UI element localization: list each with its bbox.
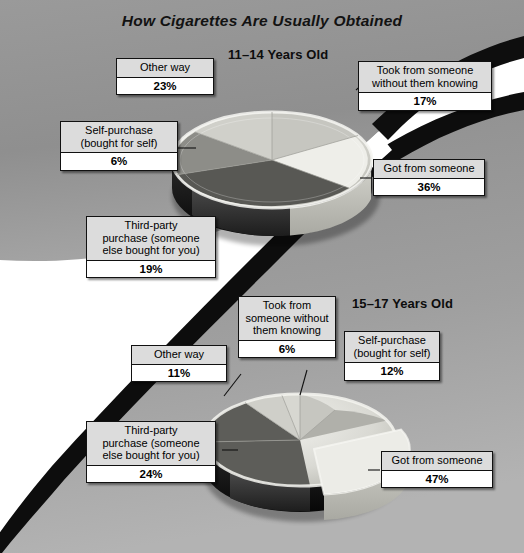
callout-got-from-someone-15-17[interactable]: Got from someone 47% [381, 451, 493, 488]
callout-third-party-11-14[interactable]: Third-party purchase (someone else bough… [86, 216, 216, 278]
callout-category: Self-purchase (bought for self) [345, 332, 439, 362]
callout-percent: 6% [61, 152, 177, 170]
callout-category: Got from someone [374, 160, 484, 178]
callout-other-way-11-14[interactable]: Other way 23% [116, 58, 214, 95]
callout-self-purchase-11-14[interactable]: Self-purchase (bought for self) 6% [60, 121, 178, 171]
chart-title-11-14: 11–14 Years Old [228, 47, 328, 62]
callout-category: Self-purchase (bought for self) [61, 122, 177, 152]
callout-category: Third-party purchase (someone else bough… [87, 422, 215, 465]
chart-title-15-17: 15–17 Years Old [352, 296, 453, 311]
callout-percent: 23% [117, 77, 213, 95]
callout-percent: 19% [87, 260, 215, 278]
callout-percent: 11% [132, 364, 226, 382]
callout-category: Third-party purchase (someone else bough… [87, 217, 215, 260]
infographic-page: How Cigarettes Are Usually Obtained 11–1… [0, 0, 524, 553]
callout-category: Took from someone without them knowing [239, 297, 335, 340]
clipped-header-text [0, 0, 524, 2]
callout-percent: 24% [87, 465, 215, 483]
callout-percent: 47% [382, 470, 492, 488]
callout-category: Other way [117, 59, 213, 77]
page-title: How Cigarettes Are Usually Obtained [0, 12, 524, 30]
pie-chart-15-17 [204, 394, 410, 522]
callout-percent: 6% [239, 340, 335, 358]
callout-took-without-knowing-15-17[interactable]: Took from someone without them knowing 6… [238, 296, 336, 358]
callout-category: Took from someone without them knowing [359, 62, 491, 92]
callout-percent: 17% [359, 92, 491, 110]
callout-percent: 36% [374, 178, 484, 196]
callout-third-party-15-17[interactable]: Third-party purchase (someone else bough… [86, 421, 216, 483]
callout-category: Got from someone [382, 452, 492, 470]
callout-other-way-15-17[interactable]: Other way 11% [131, 345, 227, 382]
callout-percent: 12% [345, 362, 439, 380]
callout-self-purchase-15-17[interactable]: Self-purchase (bought for self) 12% [344, 331, 440, 381]
callout-got-from-someone-11-14[interactable]: Got from someone 36% [373, 159, 485, 196]
callout-took-without-knowing-11-14[interactable]: Took from someone without them knowing 1… [358, 61, 492, 111]
callout-category: Other way [132, 346, 226, 364]
